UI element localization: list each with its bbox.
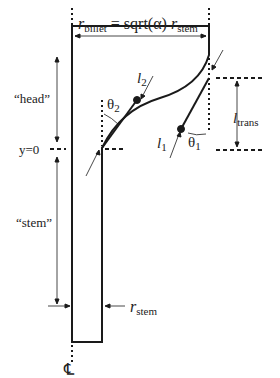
- r-stem-label: rstem: [130, 298, 157, 317]
- l2-label: l2: [137, 70, 147, 88]
- centerline-symbol: ℄: [63, 361, 75, 378]
- l1-label: l1: [157, 135, 167, 153]
- theta1-label: θ1: [188, 134, 201, 152]
- theta2-label: θ2: [107, 96, 120, 114]
- billet-diagram: rbillet = sqrt(α) rstem “head” “stem” y=…: [0, 0, 280, 378]
- stem-label: “stem”: [16, 215, 52, 230]
- ltrans-label: ltrans: [233, 110, 259, 128]
- y0-label: y=0: [19, 142, 39, 157]
- r-billet-label: rbillet = sqrt(α) rstem: [78, 15, 198, 34]
- head-label: “head”: [14, 91, 50, 106]
